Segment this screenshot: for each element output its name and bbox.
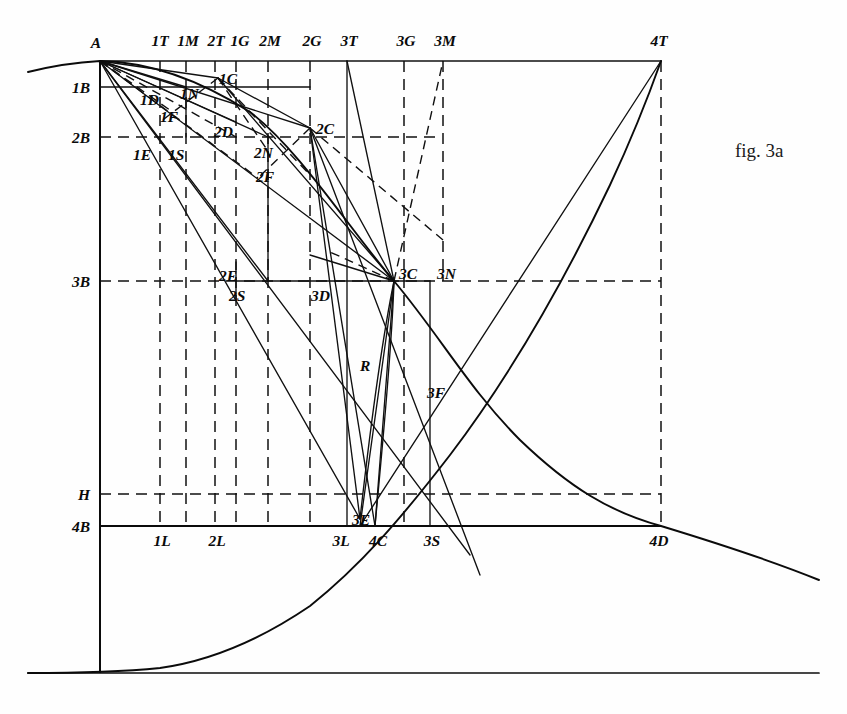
bottom-label-4D: 4D: [649, 532, 669, 549]
point-label-2S: 2S: [228, 287, 245, 304]
point-label-2C: 2C: [315, 120, 335, 137]
point-label-3D: 3D: [310, 287, 330, 304]
chord-3C-3L: [360, 281, 394, 526]
point-label-1N: 1N: [180, 85, 200, 102]
point-label-3N: 3N: [436, 265, 457, 282]
bottom-labels-group: 1L 2L 3L 4C 3S 4D: [153, 532, 668, 549]
top-label-3G: 3G: [396, 32, 417, 49]
top-label-4T: 4T: [649, 32, 668, 49]
point-label-3E: 3E: [351, 511, 370, 528]
top-label-2T: 2T: [206, 32, 225, 49]
left-label-H: H: [77, 486, 91, 503]
bottom-label-3L: 3L: [331, 532, 349, 549]
top-label-A: A: [90, 34, 101, 51]
point-label-1S: 1S: [168, 146, 184, 163]
figure-caption: fig. 3a: [735, 140, 784, 162]
construction-lines: [100, 61, 661, 575]
top-label-1G: 1G: [231, 32, 251, 49]
bottom-label-3S: 3S: [423, 532, 440, 549]
left-label-4B: 4B: [71, 518, 90, 535]
chord-2C-3E: [310, 128, 360, 519]
bottom-label-4C: 4C: [368, 532, 388, 549]
point-label-1F: 1F: [160, 108, 179, 125]
chord-3C-3T: [347, 61, 394, 281]
top-label-2M: 2M: [258, 32, 282, 49]
point-label-R: R: [359, 357, 370, 374]
point-label-3C: 3C: [398, 265, 418, 282]
chord-2C-3M-dashed: [310, 128, 443, 240]
point-label-1D: 1D: [140, 91, 159, 108]
left-labels-group: 1B 2B 3B H 4B: [71, 79, 91, 535]
point-label-2E: 2E: [218, 267, 237, 284]
left-label-3B: 3B: [71, 273, 90, 290]
diagram-canvas: A 1T 1M 2T 1G 2M 2G 3T 3G 3M 4T 1B 2B 3B…: [0, 0, 847, 714]
point-label-2F: 2F: [255, 168, 275, 185]
chords-from-A: [100, 61, 394, 519]
point-label-1C: 1C: [219, 70, 238, 87]
figure-root: A 1T 1M 2T 1G 2M 2G 3T 3G 3M 4T 1B 2B 3B…: [0, 0, 847, 714]
bottom-label-2L: 2L: [207, 532, 225, 549]
left-label-1B: 1B: [72, 79, 90, 96]
point-label-1E: 1E: [133, 146, 151, 163]
point-label-3F: 3F: [426, 384, 446, 401]
chords-from-1C: [160, 78, 394, 281]
top-label-1M: 1M: [177, 32, 200, 49]
point-label-2N: 2N: [253, 144, 274, 161]
top-label-3T: 3T: [339, 32, 358, 49]
line-2C-downright: [310, 128, 480, 575]
upper-decay-curve: [28, 61, 819, 580]
lower-rise-curve: [28, 61, 661, 673]
top-label-2G: 2G: [302, 32, 323, 49]
top-label-3M: 3M: [433, 32, 457, 49]
chord-3C-3M-dashed: [394, 61, 443, 281]
top-labels-group: A 1T 1M 2T 1G 2M 2G 3T 3G 3M 4T: [90, 32, 668, 51]
top-label-1T: 1T: [151, 32, 169, 49]
chord-1C-2N-dashed: [218, 78, 268, 151]
bottom-label-1L: 1L: [153, 532, 170, 549]
point-label-2D: 2D: [213, 123, 233, 140]
left-label-2B: 2B: [71, 129, 90, 146]
